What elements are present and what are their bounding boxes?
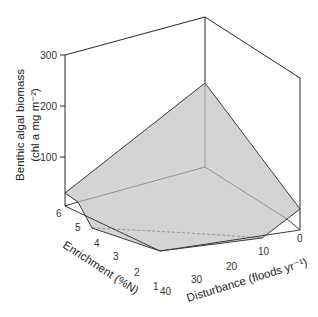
z-label-line1: Benthic algal biomass [14, 69, 26, 181]
x-tick-label: 10 [258, 246, 270, 257]
y-axis-label: Enrichment (%N) [61, 239, 141, 297]
z-tick-label: 300 [40, 50, 57, 61]
floor-left-edge [65, 202, 78, 206]
z-label-line2: (chl a mg m⁻²) [29, 88, 41, 162]
y-tick-label: 6 [56, 208, 62, 219]
y-tick-label: 3 [113, 251, 119, 262]
y-tick-label: 4 [94, 238, 100, 249]
x-tick-label: 0 [297, 233, 303, 244]
x-tick-label: 40 [160, 286, 172, 297]
x-tick-label: 20 [226, 261, 238, 272]
x-tick-label: 30 [191, 274, 203, 285]
biomass-surface [65, 83, 300, 251]
box-top-edge [65, 17, 300, 78]
x-axis-label: Disturbance (floods yr⁻¹) [185, 256, 309, 304]
surface-chart: 300 200 100 Benthic algal biomass (chl a… [0, 0, 318, 317]
floor-right-edge [287, 219, 300, 230]
z-tick-label: 200 [40, 101, 57, 112]
z-axis-label: Benthic algal biomass (chl a mg m⁻²) [14, 69, 41, 181]
z-tick-label: 100 [40, 152, 57, 163]
y-tick-label: 1 [153, 281, 159, 292]
y-tick-label: 5 [75, 222, 81, 233]
y-tick-label: 2 [134, 267, 140, 278]
